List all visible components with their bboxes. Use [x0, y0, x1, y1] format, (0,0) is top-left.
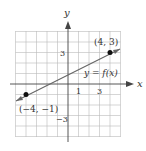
tick-y-3: 3: [60, 49, 65, 58]
line-arrow-left-icon: [16, 96, 23, 101]
point-right-label: (4, 3): [94, 37, 118, 47]
graph: x y 1 3 3 −3 (4, 3) (−4, −1) y = f(x): [0, 0, 146, 151]
tick-x-3: 3: [97, 87, 102, 96]
line-arrow-right-icon: [113, 49, 120, 54]
point-left: [24, 92, 29, 97]
point-left-label: (−4, −1): [19, 104, 58, 114]
y-axis-label: y: [63, 7, 70, 18]
tick-x-1: 1: [76, 87, 81, 96]
function-label: y = f(x): [83, 68, 118, 78]
x-axis-label: x: [137, 78, 143, 89]
tick-y-neg3: −3: [56, 115, 68, 124]
y-axis-arrow-icon: [65, 21, 71, 29]
point-right: [108, 50, 113, 55]
x-axis-arrow-icon: [126, 81, 134, 87]
